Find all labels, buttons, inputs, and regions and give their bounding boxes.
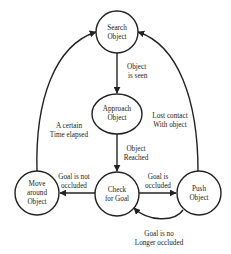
node-label: around bbox=[27, 189, 47, 197]
node-label: for Goal bbox=[105, 195, 129, 203]
edge-push-to-check bbox=[134, 208, 183, 219]
svg-text:Goal is not: Goal is not bbox=[58, 173, 90, 181]
node-label: Object bbox=[27, 198, 46, 206]
edge-label-object-reached: Object Reached bbox=[124, 145, 149, 162]
svg-text:Lost contact: Lost contact bbox=[152, 112, 187, 120]
edge-label-object-is-seen: Object is seen bbox=[127, 63, 148, 80]
node-label: Push bbox=[192, 185, 206, 193]
svg-text:Object: Object bbox=[127, 63, 146, 71]
svg-text:A certain: A certain bbox=[56, 122, 83, 130]
svg-text:With object: With object bbox=[153, 121, 186, 129]
node-label: Check bbox=[108, 186, 127, 194]
node-approach-object: Approach Object bbox=[92, 94, 142, 134]
edge-label-goal-occluded: Goal is occluded bbox=[145, 173, 171, 190]
edge-label-lost-contact: Lost contact With object bbox=[152, 112, 187, 129]
svg-text:occluded: occluded bbox=[61, 182, 87, 190]
svg-text:Reached: Reached bbox=[124, 154, 149, 162]
node-label: Object bbox=[107, 33, 126, 41]
node-check-for-goal: Check for Goal bbox=[95, 172, 139, 216]
node-label: Move bbox=[29, 180, 46, 188]
node-push-object: Push Object bbox=[177, 171, 221, 215]
node-label: Object bbox=[189, 194, 208, 202]
svg-text:occluded: occluded bbox=[145, 182, 171, 190]
svg-text:Goal is no: Goal is no bbox=[144, 230, 174, 238]
svg-text:is seen: is seen bbox=[128, 72, 148, 80]
edge-label-time-elapsed: A certain Time elapsed bbox=[50, 122, 89, 139]
svg-text:Longer occluded: Longer occluded bbox=[135, 239, 184, 247]
node-search-object: Search Object bbox=[96, 11, 138, 53]
svg-text:Object: Object bbox=[126, 145, 145, 153]
svg-text:Goal is: Goal is bbox=[148, 173, 169, 181]
edge-label-goal-not-occluded: Goal is not occluded bbox=[58, 173, 90, 190]
edge-move-to-search bbox=[37, 32, 96, 171]
node-move-around-object: Move around Object bbox=[15, 171, 59, 215]
node-label: Search bbox=[107, 24, 127, 32]
edge-push-to-search bbox=[138, 32, 198, 171]
node-label: Approach bbox=[103, 105, 132, 113]
node-label: Object bbox=[107, 114, 126, 122]
edge-label-goal-no-longer-occluded: Goal is no Longer occluded bbox=[135, 230, 184, 247]
svg-text:Time elapsed: Time elapsed bbox=[50, 131, 89, 139]
state-diagram: Search Object Approach Object Check for … bbox=[0, 0, 231, 254]
